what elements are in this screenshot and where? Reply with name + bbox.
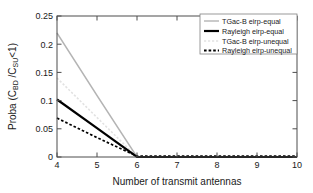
chart-figure: 4 5 6 7 8 9 10 0 0.05 0.1 0.15 0.2 0.25 … <box>0 0 313 193</box>
legend-label: Rayleigh eirp-unequal <box>222 46 292 55</box>
y-tick-label: 0 <box>48 152 53 162</box>
x-tick-label: 9 <box>254 160 259 170</box>
y-tick-label: 0.2 <box>40 40 53 50</box>
y-tick-label: 0.1 <box>40 96 53 106</box>
x-tick-label: 7 <box>174 160 179 170</box>
chart-svg: 4 5 6 7 8 9 10 0 0.05 0.1 0.15 0.2 0.25 … <box>0 0 313 193</box>
y-axis-title-mid: /C <box>7 67 18 80</box>
legend-label: Rayleigh eirp-equal <box>222 27 284 36</box>
y-axis-title-sub-bd: BD <box>12 80 19 90</box>
x-axis-title: Number of transmit antennas <box>113 176 242 187</box>
y-axis-title-sub-su: SU <box>12 58 19 68</box>
legend-label: TGac-B eirp-equal <box>222 17 281 26</box>
x-tick-labels: 4 5 6 7 8 9 10 <box>54 160 302 170</box>
y-tick-labels: 0 0.05 0.1 0.15 0.2 0.25 <box>35 11 53 162</box>
legend-label: TGac-B eirp-unequal <box>222 37 289 46</box>
y-axis-title: Proba (CBD /CSU<1) <box>7 43 19 130</box>
y-tick-label: 0.15 <box>35 68 53 78</box>
x-tick-label: 5 <box>94 160 99 170</box>
x-tick-label: 4 <box>54 160 59 170</box>
x-tick-label: 6 <box>134 160 139 170</box>
y-axis-title-tail: <1) <box>7 43 18 58</box>
chart-legend: TGac-B eirp-equal Rayleigh eirp-equal TG… <box>200 14 297 55</box>
y-tick-label: 0.25 <box>35 11 53 21</box>
x-tick-label: 8 <box>214 160 219 170</box>
x-tick-label: 10 <box>292 160 302 170</box>
y-tick-label: 0.05 <box>35 124 53 134</box>
y-axis-title-lead: Proba (C <box>7 90 18 130</box>
